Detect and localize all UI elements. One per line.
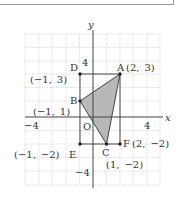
label-b: B — [70, 95, 77, 106]
point-e — [78, 142, 81, 145]
label-c: C — [102, 147, 110, 158]
label-a: A — [116, 62, 125, 73]
coords-d: (−1, 3) — [30, 74, 67, 85]
tick-x-neg4: −4 — [24, 120, 39, 131]
coordinate-diagram: y x O −4 4 4 −4 A (2, 3) D (−1, 3) B (−1… — [0, 0, 179, 206]
triangle-abc — [80, 74, 120, 144]
tick-y-pos4: 4 — [82, 57, 88, 68]
label-f: F — [123, 138, 130, 149]
tick-y-neg4: −4 — [75, 167, 90, 178]
coords-b: (−1, 1) — [33, 106, 70, 117]
point-d — [78, 72, 81, 75]
coords-e: (−1, −2) — [14, 149, 60, 160]
coords-a: (2, 3) — [126, 62, 155, 73]
point-b — [78, 99, 81, 102]
point-c — [105, 142, 108, 145]
label-d: D — [70, 62, 78, 73]
coords-f: (2, −2) — [132, 138, 169, 149]
tick-x-pos4: 4 — [144, 120, 150, 131]
y-axis-label: y — [87, 19, 94, 30]
label-e: E — [69, 149, 76, 160]
x-axis-label: x — [165, 112, 171, 123]
point-f — [118, 142, 121, 145]
coords-c: (1, −2) — [106, 159, 143, 170]
origin-label: O — [83, 121, 91, 132]
